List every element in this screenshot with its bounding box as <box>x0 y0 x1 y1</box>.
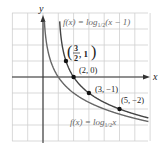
svg-text:3: 3 <box>74 44 78 53</box>
point-label-2-0: (2, 0) <box>79 65 98 75</box>
point-label-3-neg1: (3, −1) <box>95 84 118 94</box>
x-axis-arrow-icon <box>143 75 150 80</box>
data-point <box>117 107 121 111</box>
svg-text:, 1: , 1 <box>79 49 89 59</box>
data-point <box>71 75 75 79</box>
bottom-curve-label: f(x) = log1/2x <box>70 117 116 128</box>
point-label-3-2-1: ( 3 2 , 1 ) <box>67 43 96 63</box>
y-axis-arrow-icon <box>41 15 46 22</box>
svg-text:): ) <box>91 43 96 61</box>
data-point <box>87 91 91 95</box>
svg-text:2: 2 <box>74 54 78 63</box>
log-graph: x y f(x) = log1/2(x − 1) f(x) = log1/2x … <box>0 0 162 149</box>
y-axis-label: y <box>38 3 44 14</box>
x-axis-label: x <box>152 71 158 82</box>
svg-text:(: ( <box>67 43 72 61</box>
point-label-5-neg2: (5, −2) <box>121 95 144 105</box>
top-curve-label: f(x) = log1/2(x − 1) <box>63 17 130 28</box>
